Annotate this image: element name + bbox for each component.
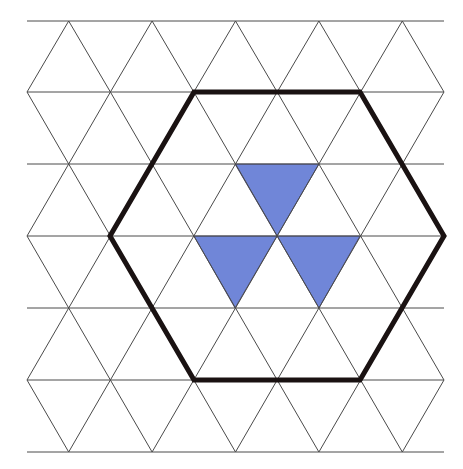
grid-diagonal-line: [152, 21, 194, 92]
shaded-triangle-bottom-right: [277, 236, 360, 308]
grid-diagonal-line: [27, 380, 69, 452]
shaded-triangle-bottom-left: [194, 236, 277, 308]
grid-diagonal-line: [194, 92, 236, 164]
grid-diagonal-line: [27, 308, 69, 380]
grid-diagonal-line: [110, 380, 152, 452]
grid-diagonal-line: [402, 308, 444, 380]
triangle-grid: [27, 21, 444, 452]
grid-diagonal-line: [402, 92, 444, 164]
grid-diagonal-line: [361, 21, 403, 92]
grid-diagonal-line: [277, 21, 319, 92]
grid-diagonal-line: [69, 164, 111, 236]
grid-diagonal-line: [27, 236, 69, 308]
grid-diagonal-line: [319, 21, 361, 92]
grid-diagonal-line: [69, 236, 111, 308]
grid-diagonal-line: [319, 164, 361, 236]
grid-diagonal-line: [361, 236, 403, 308]
grid-diagonal-line: [194, 164, 236, 236]
grid-diagonal-line: [319, 380, 361, 452]
grid-diagonal-line: [152, 164, 194, 236]
grid-diagonal-line: [236, 21, 278, 92]
grid-diagonal-line: [319, 92, 361, 164]
grid-diagonal-line: [110, 308, 152, 380]
grid-diagonal-line: [69, 21, 111, 92]
grid-diagonal-line: [236, 380, 278, 452]
grid-diagonal-line: [402, 21, 444, 92]
grid-diagonal-line: [236, 308, 278, 380]
grid-diagonal-line: [69, 380, 111, 452]
grid-diagonal-line: [27, 164, 69, 236]
grid-diagonal-line: [277, 92, 319, 164]
grid-diagonal-line: [152, 380, 194, 452]
grid-diagonal-line: [361, 164, 403, 236]
grid-diagonal-line: [194, 308, 236, 380]
grid-diagonal-line: [110, 92, 152, 164]
grid-diagonal-line: [27, 92, 69, 164]
grid-diagonal-line: [319, 308, 361, 380]
grid-diagonal-line: [277, 380, 319, 452]
grid-diagonal-line: [110, 21, 152, 92]
shaded-triangle-top: [235, 164, 319, 236]
grid-diagonal-line: [69, 308, 111, 380]
grid-diagonal-line: [236, 92, 278, 164]
grid-diagonal-line: [402, 380, 444, 452]
grid-diagonal-line: [277, 308, 319, 380]
grid-diagonal-line: [361, 380, 403, 452]
grid-diagonal-line: [152, 236, 194, 308]
grid-diagonal-line: [194, 21, 236, 92]
grid-diagonal-line: [194, 380, 236, 452]
grid-diagonal-line: [27, 21, 69, 92]
triangular-grid-diagram: [0, 0, 463, 469]
grid-diagonal-line: [69, 92, 111, 164]
